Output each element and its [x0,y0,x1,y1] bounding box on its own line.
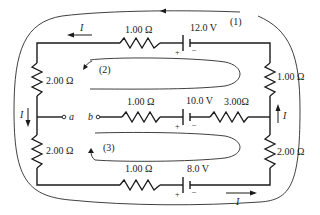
loop-2-path [90,58,240,89]
top-wire-left [37,43,120,63]
right-current-arrowhead-icon [276,104,281,111]
left-wire-bottom [37,168,120,185]
right-top-resistor [265,63,275,96]
loop-1-arrow-icon [160,9,166,14]
left-top-resistor [32,63,42,96]
bottom-resistor-label: 1.00 Ω [125,163,152,174]
loop-1-label: (1) [230,16,242,28]
right-current-label: I [282,110,287,121]
top-resistor [120,38,160,48]
bottom-battery-label: 8.0 V [187,163,210,174]
terminal-a [62,115,66,119]
middle-resistor-2 [210,112,248,122]
loop-1-path [14,11,300,205]
left-bottom-resistor [32,135,42,168]
bottom-current-arrowhead-icon [250,191,257,196]
middle-battery-minus: – [191,120,197,129]
middle-battery-label: 10.0 V [186,95,214,106]
left-top-resistor-label: 2.00 Ω [46,75,73,86]
terminal-a-label: a [69,111,74,122]
loop-3-label: (3) [103,142,115,154]
middle-resistor-1 [122,112,160,122]
middle-resistor-1-label: 1.00 Ω [127,96,154,107]
left-current-label: I [19,109,24,120]
loop-2-label: (2) [99,64,111,76]
top-battery-plus: + [175,48,180,57]
middle-battery-plus: + [175,122,180,131]
bottom-battery-plus: + [175,190,180,199]
left-bottom-resistor-label: 2.00 Ω [46,145,73,156]
top-battery-label: 12.0 V [190,22,218,33]
loop-2-arrowhead-icon [83,64,88,70]
loop-3-arrowhead-icon [88,148,94,153]
right-bottom-resistor [265,135,275,168]
top-current-arrowhead-icon [67,33,74,38]
bottom-resistor [120,180,160,190]
right-top-resistor-label: 1.00 Ω [277,71,304,82]
middle-resistor-2-label: 3.00Ω [224,96,249,107]
terminal-b [96,115,100,119]
left-current-arrowhead-icon [26,120,31,127]
top-resistor-label: 1.00 Ω [125,24,152,35]
bottom-battery-minus: – [191,187,197,196]
terminal-b-label: b [88,111,93,122]
bottom-current-label: I [235,196,240,207]
top-current-label: I [79,22,84,33]
right-bottom-resistor-label: 2.00 Ω [277,146,304,157]
top-battery-minus: – [191,45,197,54]
circuit-diagram: I 1.00 Ω 12.0 V + – (1) (2) 2.00 Ω 1.00 … [0,0,320,215]
